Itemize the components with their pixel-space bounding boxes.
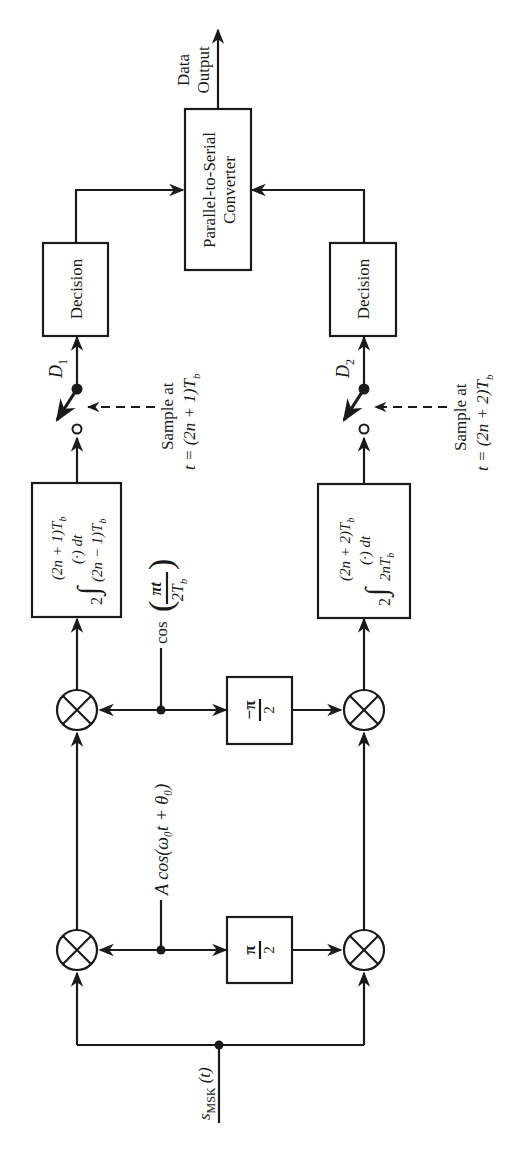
phase-shift-carrier-box: π 2	[227, 917, 292, 983]
multiplier-carrier-1	[57, 930, 97, 970]
integrator-1-box: 2 ∫ (2n + 1)Tb (·) dt (2n − 1)Tb	[32, 483, 121, 617]
svg-text:2Tb: 2Tb	[169, 578, 189, 601]
svg-text:D1: D1	[46, 359, 70, 379]
integrator-2-box: 2 ∫ (2n + 2)Tb (·) dt 2nTb	[318, 484, 410, 618]
svg-text:Data: Data	[174, 54, 193, 87]
decision-1-box: Decision	[43, 243, 108, 336]
decision-2-box: Decision	[330, 243, 396, 336]
data-output-label: Data Output	[174, 46, 213, 94]
svg-text:2: 2	[261, 946, 277, 954]
msk-receiver-diagram: sMSK(t) A cos(ω₀t + θ₀) π 2	[0, 0, 521, 1150]
svg-text:Output: Output	[194, 46, 213, 94]
input-junction-dot	[215, 1041, 224, 1050]
svg-text:Decision: Decision	[67, 258, 86, 319]
input-bus	[77, 973, 364, 1123]
svg-text:D2: D2	[333, 359, 357, 379]
svg-text:A cos(ω₀t + θ₀): A cos(ω₀t + θ₀)	[152, 784, 173, 896]
input-label: sMSK(t)	[195, 1067, 218, 1120]
svg-text:sMSK(t): sMSK(t)	[195, 1067, 218, 1120]
svg-text:∫: ∫	[71, 585, 107, 597]
carrier-label: A cos(ω₀t + θ₀)	[152, 784, 173, 896]
svg-text:(·) dt: (·) dt	[357, 535, 374, 565]
carrier-junction-dot	[157, 946, 166, 955]
baseband-junction-dot	[157, 706, 166, 715]
svg-text:Converter: Converter	[220, 156, 239, 224]
svg-text:π: π	[240, 945, 259, 955]
svg-text:(·) dt: (·) dt	[69, 534, 86, 564]
sample-label-1: Sample at t = (2n + 1)Tb	[158, 373, 202, 470]
svg-text:2: 2	[88, 597, 105, 605]
parallel-to-serial-converter-box: Parallel-to-Serial Converter	[185, 109, 251, 270]
multiplier-baseband-2	[344, 690, 384, 730]
svg-text:): )	[142, 559, 180, 570]
svg-text:2: 2	[261, 706, 277, 714]
d1-label: D1	[46, 359, 70, 379]
d2-label: D2	[333, 359, 357, 379]
phase-shift-baseband-box: −π 2	[227, 677, 292, 744]
svg-text:Sample at: Sample at	[451, 383, 470, 451]
svg-text:−π: −π	[240, 700, 259, 720]
multiplier-baseband-1	[57, 690, 97, 730]
sample-label-2: Sample at t = (2n + 2)Tb	[451, 374, 495, 471]
svg-text:Parallel-to-Serial: Parallel-to-Serial	[200, 132, 219, 248]
sampler-switch-2	[344, 384, 447, 434]
svg-text:πt: πt	[147, 582, 164, 596]
svg-text:cos: cos	[152, 621, 171, 644]
sampler-switch-1	[57, 384, 155, 434]
svg-text:t = (2n + 2)Tb: t = (2n + 2)Tb	[473, 374, 495, 471]
svg-text:Sample at: Sample at	[158, 382, 177, 450]
svg-text:∫: ∫	[359, 586, 395, 598]
multiplier-carrier-2	[344, 930, 384, 970]
baseband-label: cos ( πt 2Tb )	[142, 559, 189, 644]
svg-text:(: (	[142, 601, 180, 612]
svg-text:Decision: Decision	[354, 258, 373, 319]
svg-text:2: 2	[376, 598, 393, 606]
svg-text:t = (2n + 1)Tb: t = (2n + 1)Tb	[180, 373, 202, 470]
